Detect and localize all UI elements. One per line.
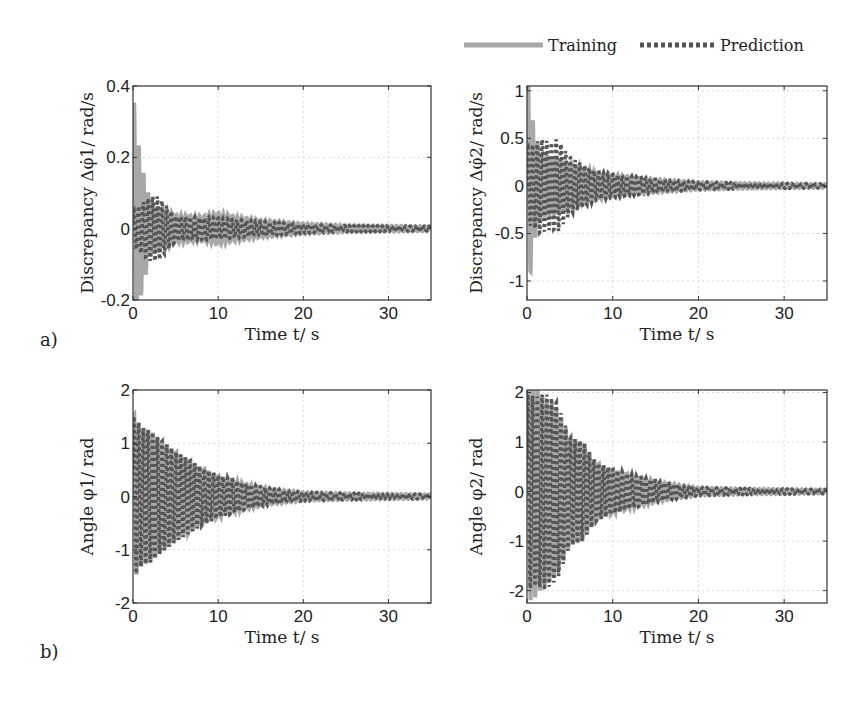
y-tick-label: 0: [121, 488, 130, 507]
x-tick-label: 30: [775, 607, 794, 626]
y-tick-label: 1: [515, 433, 524, 452]
y-tick-label: -1: [115, 541, 130, 560]
plot-discrepancy-phi1-dot: 0102030-0.200.20.4Time t/ sDiscrepancy Δ…: [77, 77, 431, 344]
x-tick-label: 0: [522, 607, 531, 626]
x-tick-label: 10: [603, 607, 622, 626]
figure: Training Prediction a) b) 0102030-0.200.…: [0, 0, 861, 702]
y-tick-label: 0.4: [106, 77, 130, 96]
y-tick-label: 0: [121, 220, 130, 239]
y-axis-label: Discrepancy Δφ̇1/ rad/s: [77, 92, 97, 294]
y-axis-label: Angle φ2/ rad: [466, 437, 486, 556]
y-tick-label: 2: [121, 381, 130, 400]
x-tick-label: 20: [689, 607, 708, 626]
series-training: [133, 103, 431, 328]
x-tick-label: 10: [209, 607, 228, 626]
legend: Training Prediction: [464, 36, 804, 55]
plot-angle-phi2: 0102030-2-1012Time t/ sAngle φ2/ rad: [466, 383, 827, 647]
y-tick-label: 0: [515, 483, 524, 502]
y-tick-label: 1: [515, 82, 524, 101]
axes-frame: [133, 86, 431, 300]
y-tick-label: -2: [509, 582, 524, 601]
legend-training-label: Training: [548, 36, 617, 55]
y-tick-label: -0.5: [495, 224, 524, 243]
y-axis-label: Discrepancy Δφ̇2/ rad/s: [466, 92, 486, 294]
y-tick-label: -1: [509, 272, 524, 291]
x-tick-label: 30: [379, 304, 398, 323]
grid: [133, 86, 431, 300]
x-tick-label: 20: [294, 607, 313, 626]
x-axis-label: Time t/ s: [639, 324, 714, 344]
y-tick-label: 0.5: [500, 129, 524, 148]
panel-label-b: b): [40, 641, 59, 662]
panel-label-a: a): [40, 329, 58, 350]
x-axis-label: Time t/ s: [244, 324, 319, 344]
y-tick-label: 0: [515, 177, 524, 196]
y-tick-label: -2: [115, 594, 130, 613]
y-tick-label: 0.2: [106, 148, 130, 167]
x-tick-label: 30: [379, 607, 398, 626]
x-tick-label: 10: [209, 304, 228, 323]
x-tick-label: 10: [603, 304, 622, 323]
x-tick-label: 20: [689, 304, 708, 323]
y-tick-label: 1: [121, 434, 130, 453]
plot-angle-phi1: 0102030-2-1012Time t/ sAngle φ1/ rad: [77, 381, 431, 647]
x-axis-label: Time t/ s: [639, 627, 714, 647]
y-axis-label: Angle φ1/ rad: [77, 437, 97, 556]
y-tick-label: 2: [515, 383, 524, 402]
y-tick-label: -1: [509, 532, 524, 551]
y-tick-label: -0.2: [101, 291, 130, 310]
x-axis-label: Time t/ s: [244, 627, 319, 647]
plot-discrepancy-phi2-dot: 0102030-1-0.500.51Time t/ sDiscrepancy Δ…: [466, 81, 827, 344]
x-tick-label: 0: [522, 304, 531, 323]
x-tick-label: 20: [294, 304, 313, 323]
x-tick-label: 30: [775, 304, 794, 323]
legend-prediction-label: Prediction: [720, 36, 804, 55]
